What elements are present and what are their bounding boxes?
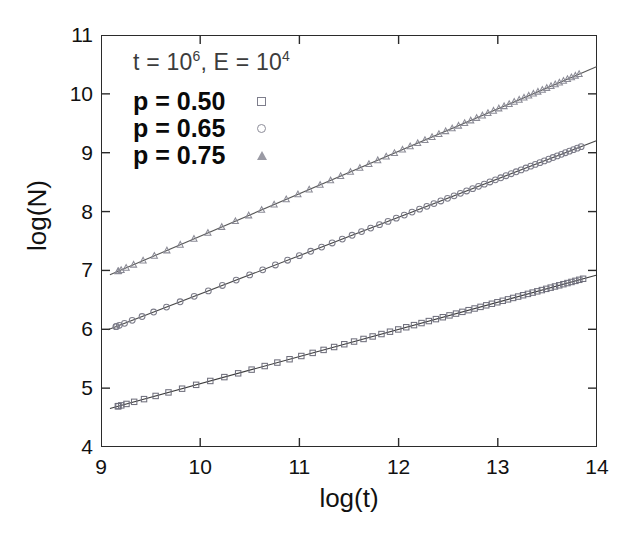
figure-canvas: 4567891011 91011121314 log(N) log(t) t =… [0,0,640,535]
annotation-e-exponent: 4 [282,48,290,64]
x-tick-10: 10 [189,455,212,479]
y-tick-10: 10 [70,82,93,106]
triangle-marker-icon [257,151,267,160]
y-tick-5: 5 [81,376,93,400]
annotation-middle: , E = 10 [200,49,282,75]
y-axis-title: log(N) [22,146,53,286]
legend-item-p050: p = 0.50 [133,88,278,115]
legend-label-p075: p = 0.75 [133,142,225,169]
legend-label-p050: p = 0.50 [133,88,225,115]
y-tick-6: 6 [81,317,93,341]
y-tick-9: 9 [81,141,93,165]
x-tick-11: 11 [288,455,310,479]
x-tick-13: 13 [486,455,509,479]
x-axis-title: log(t) [101,483,597,514]
square-marker-icon [257,97,266,106]
legend-item-p075: p = 0.75 [133,142,278,169]
parameter-annotation: t = 106, E = 104 [133,48,290,76]
legend-label-p065: p = 0.65 [133,115,225,142]
x-tick-12: 12 [387,455,410,479]
legend: p = 0.50 p = 0.65 p = 0.75 [133,88,278,169]
y-tick-7: 7 [81,258,93,282]
circle-marker-icon [257,124,266,133]
legend-item-p065: p = 0.65 [133,115,278,142]
annotation-t-prefix: t = 10 [133,49,192,75]
x-tick-9: 9 [95,455,107,479]
x-tick-14: 14 [585,455,608,479]
y-tick-8: 8 [81,200,93,224]
y-tick-11: 11 [71,23,93,47]
